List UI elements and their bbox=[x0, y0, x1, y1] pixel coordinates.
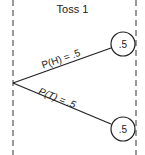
branch-tails-label: P(T) = .5 bbox=[37, 85, 78, 110]
tree-diagram: .5 .5 P(H) = .5 P(T) = .5 bbox=[0, 0, 145, 155]
node-heads-value: .5 bbox=[119, 39, 128, 50]
node-tails-value: .5 bbox=[119, 124, 128, 135]
branch-heads-label: P(H) = .5 bbox=[40, 47, 82, 71]
